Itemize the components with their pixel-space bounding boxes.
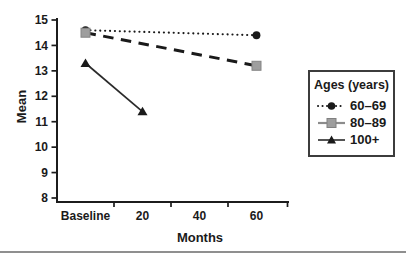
data-point-square [81, 28, 90, 37]
series-line-dotted [86, 30, 257, 35]
y-tick-label: 10 [35, 140, 49, 154]
series-line-solid [86, 63, 143, 111]
y-tick-label: 11 [35, 115, 48, 129]
y-axis-title: Mean [14, 84, 29, 130]
legend-label: 80–89 [350, 116, 386, 130]
y-tick-label: 12 [35, 89, 49, 103]
legend-label: 100+ [350, 133, 379, 147]
x-category-label: 60 [250, 209, 264, 223]
legend-item-80-89: 80–89 [317, 116, 393, 130]
y-tick-label: 15 [35, 13, 49, 27]
y-tick-label: 8 [41, 191, 48, 205]
solid-line-triangle-marker-icon [317, 134, 346, 146]
legend-label: 60–69 [350, 99, 386, 113]
gray-line-square-marker-icon [317, 117, 346, 129]
x-category-label: 20 [136, 209, 150, 223]
x-category-label: Baseline [61, 209, 111, 223]
y-tick-label: 14 [35, 39, 49, 53]
x-category-label: 40 [193, 209, 207, 223]
legend-item-60-69: 60–69 [317, 99, 393, 113]
y-tick-label: 13 [35, 64, 49, 78]
data-point-triangle [81, 58, 91, 67]
legend-title: Ages (years) [310, 78, 393, 92]
series-line-dashed [86, 33, 257, 66]
legend-box: Ages (years) 60–69 80–89 100+ [308, 70, 395, 157]
data-point-circle [253, 31, 261, 39]
bottom-divider-rule [0, 251, 406, 253]
y-tick-label: 9 [41, 166, 48, 180]
data-point-square [252, 61, 261, 70]
x-axis-title: Months [140, 230, 260, 245]
legend-item-100plus: 100+ [317, 133, 393, 147]
dotted-line-circle-marker-icon [317, 100, 346, 112]
